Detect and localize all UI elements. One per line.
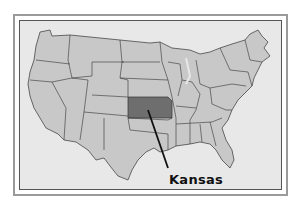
kansas-label: Kansas xyxy=(169,172,223,187)
us-map xyxy=(0,0,300,210)
